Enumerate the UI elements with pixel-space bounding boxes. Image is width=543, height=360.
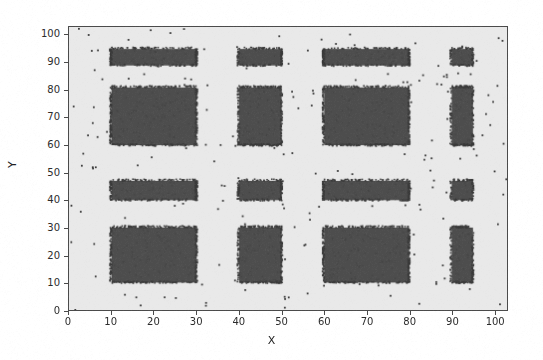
x-tick-mark: [111, 311, 112, 315]
y-tick-label: 10: [18, 277, 60, 288]
y-tick-mark: [64, 200, 68, 201]
y-tick-label: 70: [18, 111, 60, 122]
figure: 0102030405060708090100 01020304050607080…: [0, 0, 543, 360]
y-tick-mark: [64, 173, 68, 174]
x-tick-label: 100: [475, 316, 515, 327]
x-tick-mark: [452, 311, 453, 315]
x-tick-mark: [282, 311, 283, 315]
y-tick-mark: [64, 34, 68, 35]
y-tick-label: 40: [18, 194, 60, 205]
y-tick-mark: [64, 256, 68, 257]
y-tick-mark: [64, 145, 68, 146]
y-tick-mark: [64, 117, 68, 118]
x-tick-mark: [367, 311, 368, 315]
y-tick-mark: [64, 90, 68, 91]
plot-area: [68, 26, 508, 311]
x-tick-mark: [410, 311, 411, 315]
x-tick-mark: [196, 311, 197, 315]
x-axis-label: X: [0, 334, 543, 347]
x-tick-mark: [239, 311, 240, 315]
x-tick-mark: [495, 311, 496, 315]
x-tick-label: 70: [347, 316, 387, 327]
scatter-plot-canvas: [69, 27, 507, 310]
y-tick-label: 60: [18, 139, 60, 150]
x-tick-mark: [153, 311, 154, 315]
x-tick-label: 50: [262, 316, 302, 327]
y-tick-mark: [64, 228, 68, 229]
x-tick-label: 90: [432, 316, 472, 327]
y-tick-mark: [64, 62, 68, 63]
y-tick-label: 20: [18, 250, 60, 261]
x-tick-label: 40: [219, 316, 259, 327]
x-tick-label: 0: [48, 316, 88, 327]
y-tick-label: 50: [18, 167, 60, 178]
x-tick-mark: [68, 311, 69, 315]
y-tick-mark: [64, 283, 68, 284]
x-tick-label: 10: [91, 316, 131, 327]
y-tick-label: 30: [18, 222, 60, 233]
x-tick-label: 60: [304, 316, 344, 327]
y-tick-label: 90: [18, 56, 60, 67]
x-tick-label: 20: [133, 316, 173, 327]
x-tick-label: 30: [176, 316, 216, 327]
y-tick-label: 80: [18, 84, 60, 95]
x-tick-mark: [324, 311, 325, 315]
y-tick-label: 0: [18, 305, 60, 316]
x-tick-label: 80: [390, 316, 430, 327]
y-tick-mark: [64, 311, 68, 312]
y-axis-label: Y: [6, 145, 19, 185]
y-tick-label: 100: [18, 28, 60, 39]
